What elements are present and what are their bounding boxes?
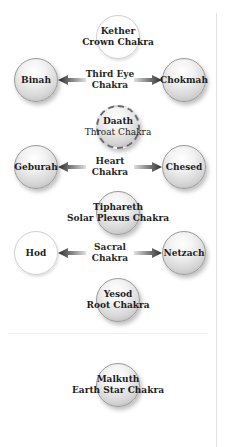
pair-label-sacral: Sacral Chakra (92, 242, 128, 264)
label-netzach: Netzach (163, 248, 204, 259)
arrow-right-icon (134, 248, 162, 258)
pair-label-line1: Heart (92, 156, 128, 167)
pair-label-line1: Third Eye (86, 69, 135, 80)
arrow-left-icon (58, 248, 86, 258)
pair-label-line2: Chakra (92, 253, 128, 264)
vertical-divider (216, 13, 217, 447)
pair-label-heart: Heart Chakra (92, 156, 128, 178)
label-hod: Hod (26, 248, 47, 259)
node-name: Binah (21, 75, 51, 86)
arrow-left-icon (58, 75, 86, 85)
label-chesed: Chesed (166, 162, 203, 173)
node-subtitle: Crown Chakra (82, 37, 154, 48)
label-daath: Daath Throat Chakra (85, 116, 152, 138)
node-name: Chokmah (160, 75, 208, 86)
node-name: Yesod (86, 289, 149, 300)
label-kether: Kether Crown Chakra (82, 26, 154, 48)
node-name: Chesed (166, 162, 203, 173)
node-name: Netzach (163, 248, 204, 259)
label-chokmah: Chokmah (160, 75, 208, 86)
node-name: Kether (82, 26, 154, 37)
label-tiphareth: Tiphareth Solar Plexus Chakra (67, 202, 169, 224)
pair-label-line2: Chakra (92, 167, 128, 178)
node-name: Tiphareth (67, 202, 169, 213)
label-yesod: Yesod Root Chakra (86, 289, 149, 311)
node-subtitle: Solar Plexus Chakra (67, 213, 169, 224)
arrow-left-icon (58, 162, 86, 172)
label-geburah: Geburah (14, 162, 57, 173)
arrow-right-icon (134, 162, 162, 172)
pair-label-line1: Sacral (92, 242, 128, 253)
node-name: Malkuth (72, 374, 164, 385)
horizontal-divider (8, 333, 208, 334)
pair-label-line2: Chakra (86, 80, 135, 91)
node-subtitle: Earth Star Chakra (72, 385, 164, 396)
node-name: Geburah (14, 162, 57, 173)
node-subtitle: Root Chakra (86, 300, 149, 311)
node-name: Daath (85, 116, 152, 127)
arrow-right-icon (134, 75, 162, 85)
pair-label-third-eye: Third Eye Chakra (86, 69, 135, 91)
node-subtitle: Throat Chakra (85, 127, 152, 138)
label-malkuth: Malkuth Earth Star Chakra (72, 374, 164, 396)
node-name: Hod (26, 248, 47, 259)
label-binah: Binah (21, 75, 51, 86)
